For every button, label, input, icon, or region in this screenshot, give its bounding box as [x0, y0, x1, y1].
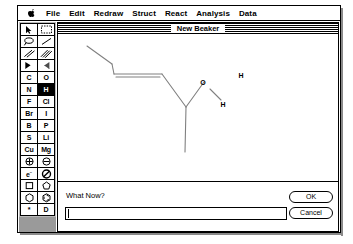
apple-icon[interactable] — [28, 9, 36, 18]
benzene-tool[interactable] — [38, 192, 55, 204]
hexagon-ring-icon — [24, 193, 35, 203]
element-p-label: P — [44, 122, 48, 129]
element-cl-label: Cl — [43, 98, 50, 105]
double-bond-tool[interactable] — [21, 48, 38, 60]
window-shadow-right — [341, 8, 343, 236]
element-f[interactable]: F — [21, 96, 38, 108]
element-i-label: I — [45, 110, 47, 117]
menu-item-edit[interactable]: Edit — [69, 7, 85, 20]
radical-tool[interactable]: * — [21, 204, 38, 216]
atom-label-h1: H — [220, 101, 225, 108]
drawing-canvas[interactable]: O H H — [58, 34, 338, 181]
single-bond-tool[interactable] — [38, 36, 55, 48]
element-br-label: Br — [25, 110, 32, 117]
element-li-label: Li — [43, 134, 49, 141]
negative-charge-tool[interactable] — [38, 156, 55, 168]
menu-item-react[interactable]: React — [165, 7, 187, 20]
deuterium-tool-label: D — [44, 206, 49, 213]
element-c[interactable]: C — [21, 72, 38, 84]
square-ring-icon — [24, 181, 35, 190]
document-window: New Beaker — [57, 22, 339, 232]
hash-bond-tool[interactable] — [38, 60, 55, 72]
single-bond-icon — [40, 37, 53, 46]
no-entry-slash-icon — [41, 169, 52, 179]
element-c-label: C — [27, 74, 32, 81]
window-title: New Beaker — [171, 24, 226, 33]
triple-bond-tool[interactable] — [38, 48, 55, 60]
radical-tool-label: * — [28, 206, 31, 213]
element-cu-label: Cu — [25, 146, 34, 153]
plus-circle-icon — [24, 157, 35, 166]
pointer-tool[interactable] — [21, 24, 38, 36]
cyclopentane-tool[interactable] — [38, 180, 55, 192]
window-shadow-bottom — [20, 233, 342, 235]
element-i[interactable]: I — [38, 108, 55, 120]
menu-item-redraw[interactable]: Redraw — [94, 7, 124, 20]
marquee-select-tool[interactable] — [38, 24, 55, 36]
element-mg[interactable]: Mg — [38, 144, 55, 156]
text-caret — [68, 209, 69, 218]
cancel-button[interactable]: Cancel — [289, 207, 333, 219]
lasso-icon — [23, 37, 36, 46]
atom-label-o: O — [200, 79, 206, 86]
lasso-tool[interactable] — [21, 36, 38, 48]
cyclohexane-tool[interactable] — [21, 192, 38, 204]
erase-tool[interactable] — [38, 168, 55, 180]
element-cl[interactable]: Cl — [38, 96, 55, 108]
element-o-label: O — [43, 74, 48, 81]
element-n-label: N — [27, 86, 32, 93]
wedge-bond-tool[interactable] — [21, 60, 38, 72]
element-b-label: B — [27, 122, 32, 129]
element-p[interactable]: P — [38, 120, 55, 132]
tool-palette: CONHFClBrIBPSLiCuMge−*D — [19, 22, 56, 232]
element-cu[interactable]: Cu — [21, 144, 38, 156]
menu-item-data[interactable]: Data — [239, 7, 257, 20]
menu-bar: File Edit Redraw Struct React Analysis D… — [18, 6, 340, 21]
ok-button[interactable]: OK — [289, 191, 333, 203]
element-li[interactable]: Li — [38, 132, 55, 144]
arrow-cursor-icon — [23, 25, 36, 35]
element-o[interactable]: O — [38, 72, 55, 84]
application-window: File Edit Redraw Struct React Analysis D… — [17, 5, 341, 233]
screen: File Edit Redraw Struct React Analysis D… — [0, 0, 353, 244]
element-s[interactable]: S — [21, 132, 38, 144]
positive-charge-tool[interactable] — [21, 156, 38, 168]
triple-bond-icon — [40, 49, 53, 58]
tool-palette-grid: CONHFClBrIBPSLiCuMge−*D — [20, 23, 55, 216]
prompt-panel: What Now? OK Cancel — [58, 181, 338, 231]
element-br[interactable]: Br — [21, 108, 38, 120]
electron-tool-label: e− — [26, 169, 32, 178]
cyclobutane-tool[interactable] — [21, 180, 38, 192]
prompt-input[interactable] — [65, 207, 287, 220]
element-mg-label: Mg — [41, 146, 51, 153]
element-h-label: H — [44, 86, 49, 93]
element-n[interactable]: N — [21, 84, 38, 96]
electron-tool[interactable]: e− — [21, 168, 38, 180]
element-s-label: S — [27, 134, 31, 141]
element-b[interactable]: B — [21, 120, 38, 132]
dashed-rectangle-icon — [40, 25, 53, 34]
menu-item-struct[interactable]: Struct — [132, 7, 156, 20]
palette-footer — [19, 217, 56, 232]
double-bond-icon — [23, 49, 36, 58]
menu-item-file[interactable]: File — [46, 7, 60, 20]
prompt-label: What Now? — [66, 191, 105, 200]
minus-circle-icon — [41, 157, 52, 166]
hashed-wedge-bond-icon — [40, 61, 53, 70]
element-f-label: F — [27, 98, 31, 105]
benzene-ring-icon — [41, 193, 52, 203]
pentagon-ring-icon — [41, 181, 52, 190]
wedge-bond-icon — [23, 61, 36, 70]
element-h[interactable]: H — [38, 84, 55, 96]
menu-item-analysis[interactable]: Analysis — [196, 7, 230, 20]
atom-label-h2: H — [238, 72, 243, 79]
window-title-bar[interactable]: New Beaker — [58, 23, 338, 34]
deuterium-tool[interactable]: D — [38, 204, 55, 216]
